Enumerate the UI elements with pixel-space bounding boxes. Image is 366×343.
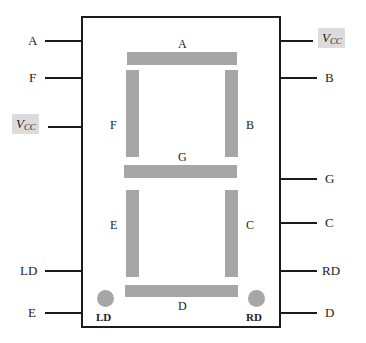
- pin-label-right-c: C: [325, 216, 334, 229]
- inner-label-decimal-point-ld: LD: [96, 312, 111, 323]
- lead-right-b: [281, 77, 317, 79]
- lead-left-a: [45, 40, 81, 42]
- segment-c: [225, 190, 238, 277]
- vcc-highlight-left: VCC: [12, 114, 39, 134]
- inner-label-segment-g: G: [178, 151, 187, 163]
- pin-label-left-ld: LD: [20, 264, 37, 277]
- pin-label-right-d: D: [325, 306, 334, 319]
- lead-right-g: [281, 178, 317, 180]
- segment-f: [126, 70, 139, 157]
- inner-label-segment-e: E: [110, 219, 117, 231]
- lead-left-e: [45, 312, 81, 314]
- decimal-point-dot-ld: [97, 290, 114, 307]
- segment-g: [124, 165, 237, 178]
- vcc-subscript-left: CC: [24, 122, 35, 132]
- vcc-highlight-right: VCC: [318, 28, 345, 48]
- inner-label-decimal-point-rd: RD: [246, 312, 262, 323]
- pin-label-right-g: G: [325, 172, 334, 185]
- segment-b: [225, 70, 238, 157]
- lead-right-d: [281, 312, 317, 314]
- inner-label-segment-d: D: [178, 300, 187, 312]
- pin-label-right-vcc: VCC: [318, 31, 345, 44]
- pin-label-left-f: F: [29, 71, 36, 84]
- pin-label-left-vcc: VCC: [12, 117, 39, 130]
- vcc-base-right: V: [322, 30, 330, 45]
- lead-right-rd: [281, 270, 317, 272]
- inner-label-segment-b: B: [246, 119, 254, 131]
- pin-label-right-rd: RD: [322, 264, 340, 277]
- vcc-subscript-right: CC: [330, 36, 341, 46]
- decimal-point-dot-rd: [248, 290, 265, 307]
- segment-d: [125, 285, 238, 297]
- inner-label-segment-c: C: [246, 219, 254, 231]
- inner-label-segment-a: A: [178, 38, 187, 50]
- seven-segment-display-diagram: A F VCC LD E VCC B G C RD D A F B G E C …: [0, 0, 366, 343]
- pin-label-left-a: A: [28, 34, 37, 47]
- lead-left-ld: [45, 270, 81, 272]
- lead-right-c: [281, 222, 317, 224]
- pin-label-right-b: B: [325, 71, 334, 84]
- inner-label-segment-f: F: [110, 119, 117, 131]
- lead-right-vcc: [281, 40, 313, 42]
- vcc-base-left: V: [16, 116, 24, 131]
- segment-e: [126, 190, 139, 277]
- pin-label-left-e: E: [28, 306, 36, 319]
- lead-left-vcc: [48, 126, 81, 128]
- segment-a: [127, 52, 237, 65]
- lead-left-f: [45, 77, 81, 79]
